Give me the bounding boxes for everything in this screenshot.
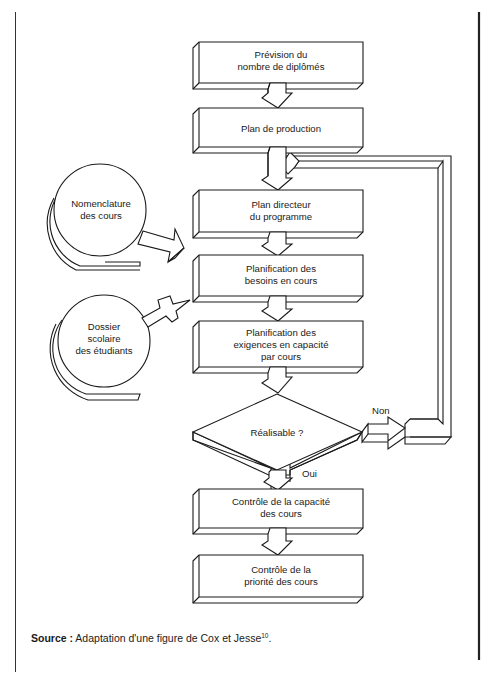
data-store-nomenclature: Nomenclature des cours	[47, 164, 184, 270]
no-branch-arrow	[362, 417, 405, 449]
store-label-line: Nomenclature	[71, 198, 131, 209]
source-text: Adaptation d'une figure de Cox et Jesse	[73, 632, 261, 644]
store-label-line: des étudiants	[75, 345, 132, 356]
box-label-line: priorité des cours	[244, 576, 318, 587]
figure-caption: Source : Adaptation d'une figure de Cox …	[31, 632, 271, 644]
process-box-controle-capacite: Contrôle de la capacité des cours	[193, 489, 363, 534]
process-box-planif-besoins: Planification des besoins en cours	[193, 255, 363, 302]
caption-end: .	[268, 632, 271, 644]
store-label-line: scolaire	[87, 333, 120, 344]
process-box-prevision: Prévision du nombre de diplômés	[193, 42, 363, 89]
box-label-line: besoins en cours	[245, 275, 318, 286]
box-label-line: du programme	[250, 211, 312, 222]
box-label-line: nombre de diplômés	[238, 61, 325, 72]
box-label-line: Contrôle de la	[251, 564, 311, 575]
store-label-line: Dossier	[88, 321, 121, 332]
box-label-line: par cours	[261, 351, 301, 362]
process-box-planif-exigences: Planification des exigences en capacité …	[193, 321, 363, 373]
box-label-line: Planification des	[246, 263, 316, 274]
box-label-line: Planification des	[246, 327, 316, 338]
store-label-line: des cours	[80, 210, 122, 221]
source-label: Source :	[31, 632, 73, 644]
box-label-line: Prévision du	[255, 49, 308, 60]
box-label-line: Plan de production	[241, 123, 321, 134]
data-store-dossier: Dossier scolaire des étudiants	[50, 295, 190, 400]
box-label-line: Plan directeur	[251, 199, 311, 210]
process-box-plan-production: Plan de production	[193, 108, 363, 153]
decision-label: Réalisable ?	[251, 427, 304, 438]
flowchart: Prévision du nombre de diplômés Plan de …	[0, 0, 494, 673]
process-box-plan-directeur: Plan directeur du programme	[193, 190, 363, 238]
process-box-controle-priorite: Contrôle de la priorité des cours	[193, 555, 363, 603]
box-label-line: des cours	[260, 508, 302, 519]
yes-label: Oui	[302, 468, 317, 479]
no-label: Non	[372, 405, 390, 416]
box-label-line: exigences en capacité	[234, 339, 329, 350]
box-label-line: Contrôle de la capacité	[232, 496, 330, 507]
